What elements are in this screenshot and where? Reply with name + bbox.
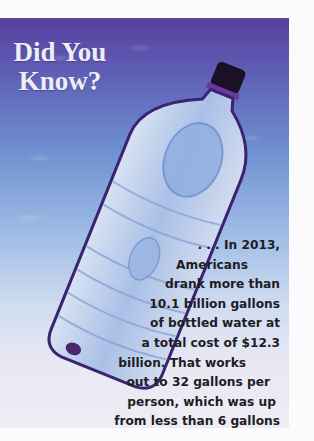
fact-line: of bottled water at bbox=[96, 314, 286, 334]
fact-line: a total cost of $12.3 bbox=[96, 334, 286, 354]
title-line: Know? bbox=[5, 67, 115, 96]
fact-line: . . . In 2013, bbox=[96, 236, 286, 256]
fact-text: . . . In 2013, Americans drank more than… bbox=[96, 236, 286, 428]
fact-line: from less than 6 gallons bbox=[96, 412, 286, 428]
fact-line: out to 32 gallons per bbox=[96, 373, 286, 393]
fact-line: Americans bbox=[96, 256, 286, 276]
fact-line: billion. That works bbox=[96, 354, 286, 374]
fact-line: 10.1 billion gallons bbox=[96, 295, 286, 315]
fact-line: drank more than bbox=[96, 275, 286, 295]
did-you-know-title: Did You Know? bbox=[5, 38, 115, 96]
title-line: Did You bbox=[5, 38, 115, 67]
did-you-know-sidebar: Did You Know? . . . In 2013, Americans d… bbox=[0, 18, 289, 428]
fact-line: person, which was up bbox=[96, 393, 286, 413]
